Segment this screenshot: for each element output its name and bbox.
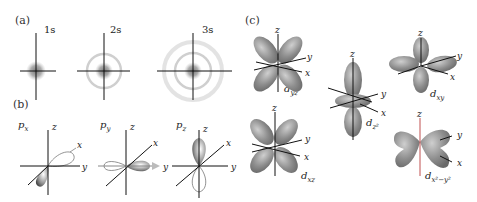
svg-text:x: x bbox=[457, 158, 462, 168]
svg-text:z: z bbox=[202, 124, 208, 134]
s-orbital-1s bbox=[20, 33, 56, 100]
svg-text:z: z bbox=[129, 122, 135, 132]
svg-text:z: z bbox=[51, 122, 57, 132]
svg-text:x: x bbox=[381, 108, 386, 118]
s-orbital-3s bbox=[157, 33, 232, 100]
svg-text:x: x bbox=[305, 68, 310, 78]
svg-text:y: y bbox=[456, 130, 463, 140]
svg-text:y: y bbox=[162, 162, 169, 172]
s-orbital-2s bbox=[77, 33, 130, 100]
d-orbital-dz2: z y x bbox=[328, 49, 387, 140]
svg-text:x: x bbox=[226, 138, 231, 148]
svg-text:z: z bbox=[349, 49, 355, 59]
svg-text:y: y bbox=[81, 162, 88, 172]
svg-text:z: z bbox=[271, 103, 277, 113]
svg-text:y: y bbox=[230, 162, 237, 172]
svg-text:x: x bbox=[77, 140, 82, 150]
d-orbital-dyz: z y x bbox=[249, 25, 313, 96]
orbital-figure: z x y z x y z x y z y x bbox=[0, 0, 477, 202]
d-orbital-dxy: z y x bbox=[389, 28, 463, 93]
svg-text:y: y bbox=[456, 51, 463, 61]
p-orbital-pz: z x y bbox=[172, 124, 237, 198]
d-orbital-dx2y2: z y x bbox=[394, 109, 463, 176]
svg-text:y: y bbox=[380, 89, 387, 99]
svg-text:z: z bbox=[417, 28, 423, 38]
d-orbital-dxz: z y x bbox=[245, 103, 311, 177]
svg-text:x: x bbox=[153, 138, 158, 148]
svg-text:y: y bbox=[306, 52, 313, 62]
svg-text:y: y bbox=[304, 134, 311, 144]
svg-text:x: x bbox=[450, 72, 455, 82]
svg-text:x: x bbox=[304, 152, 309, 162]
svg-text:z: z bbox=[274, 25, 280, 35]
svg-text:z: z bbox=[416, 109, 422, 119]
p-orbital-py: z x y bbox=[98, 122, 169, 195]
p-orbital-px: z x y bbox=[20, 122, 88, 195]
